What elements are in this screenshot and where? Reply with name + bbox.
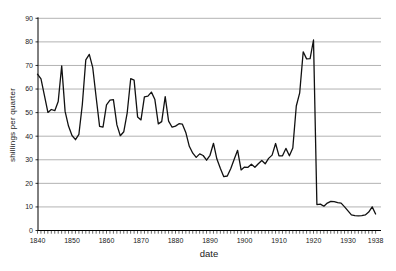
x-tick-label: 1880 <box>168 237 184 244</box>
y-tick-label: 70 <box>25 62 33 69</box>
wheat-price-chart: 0102030405060708090184018501860187018801… <box>0 0 396 271</box>
y-tick-label: 80 <box>25 38 33 45</box>
x-tick-label: 1890 <box>202 237 218 244</box>
x-tick-label: 1900 <box>237 237 253 244</box>
y-tick-label: 0 <box>29 227 33 234</box>
y-tick-label: 30 <box>25 156 33 163</box>
y-tick-label: 50 <box>25 109 33 116</box>
y-tick-label: 60 <box>25 85 33 92</box>
y-tick-label: 90 <box>25 15 33 22</box>
x-tick-label: 1840 <box>30 237 46 244</box>
x-tick-label: 1930 <box>340 237 356 244</box>
plot-area: 0102030405060708090184018501860187018801… <box>0 0 396 271</box>
y-tick-label: 20 <box>25 180 33 187</box>
x-tick-label: 1870 <box>133 237 149 244</box>
y-axis-title: shillings per quarter <box>8 88 17 162</box>
x-tick-label: 1910 <box>271 237 287 244</box>
price-line <box>38 40 376 216</box>
x-tick-label: 1920 <box>306 237 322 244</box>
y-tick-label: 10 <box>25 203 33 210</box>
x-tick-label: 1850 <box>64 237 80 244</box>
y-tick-label: 40 <box>25 133 33 140</box>
x-tick-label: 1860 <box>99 237 115 244</box>
x-axis-title: date <box>200 248 219 259</box>
x-tick-label: 1938 <box>368 237 384 244</box>
